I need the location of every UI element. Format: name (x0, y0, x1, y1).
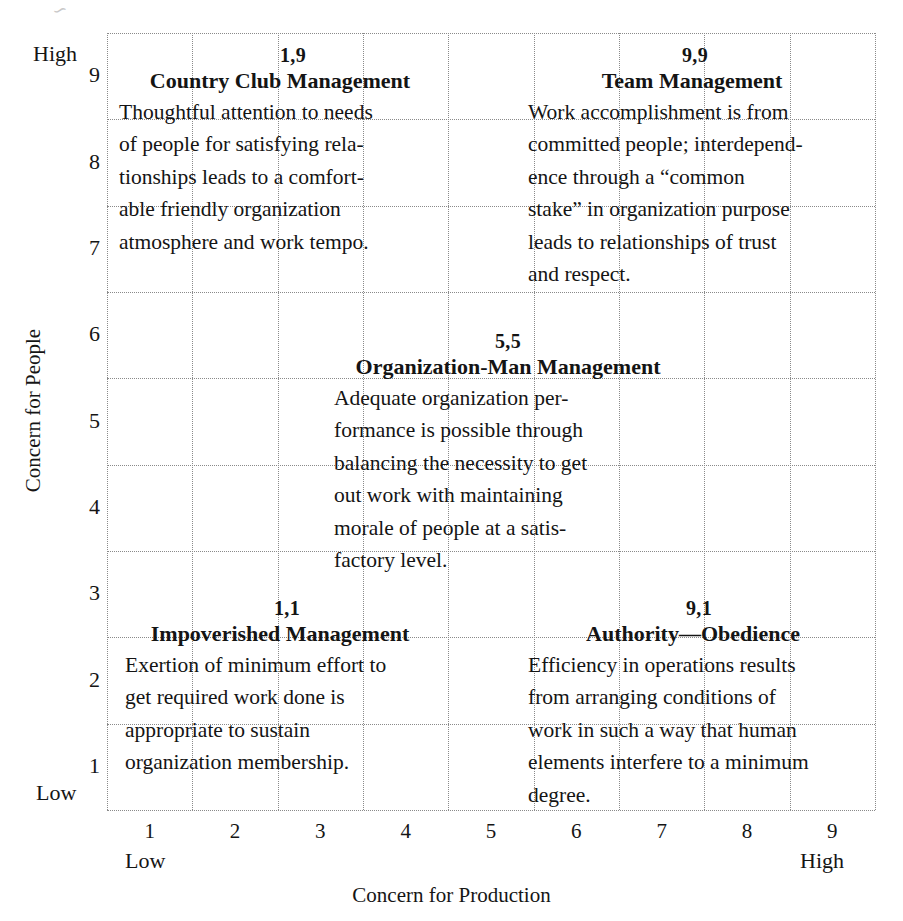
coordinate-label-9-1: 9,1 (540, 597, 858, 619)
style-title-organization-man: Organization-Man Management (334, 353, 682, 381)
text-line: from arranging conditions of (528, 681, 858, 713)
grid-line-vertical (107, 33, 108, 810)
x-tick-2: 2 (215, 820, 255, 842)
coordinate-label-1-9: 1,9 (147, 44, 439, 66)
text-line: able friendly organization (119, 193, 439, 225)
grid-line-vertical (875, 33, 876, 810)
style-title-country-club: Country Club Management (121, 67, 439, 95)
y-axis-title: Concern for People (23, 316, 44, 506)
style-description-organization-man: Adequate organization per-formance is po… (334, 382, 682, 576)
text-line: degree. (528, 779, 858, 811)
style-description-authority-obedience: Efficiency in operations resultsfrom arr… (528, 649, 858, 811)
y-axis-tick-labels: 9 8 7 6 5 4 3 2 1 (48, 33, 100, 810)
text-line: and respect. (528, 258, 858, 290)
y-tick-4: 4 (74, 496, 100, 518)
style-title-team: Team Management (526, 67, 858, 95)
y-tick-3: 3 (74, 582, 100, 604)
text-line: elements interfere to a minimum (528, 746, 858, 778)
y-tick-9: 9 (74, 64, 100, 86)
coordinate-label-9-9: 9,9 (532, 44, 858, 66)
text-line: Thoughtful attention to needs (119, 96, 439, 128)
x-axis-high-label: High (800, 849, 844, 873)
x-tick-8: 8 (727, 820, 767, 842)
style-description-impoverished: Exertion of minimum effort toget require… (125, 649, 435, 779)
y-tick-2: 2 (74, 669, 100, 691)
style-title-authority-obedience: Authority—Obedience (528, 620, 858, 648)
x-axis-tick-labels: 1 2 3 4 5 6 7 8 9 (107, 820, 875, 846)
y-axis-low-label: Low (36, 781, 76, 805)
x-axis-title: Concern for Production (0, 884, 903, 906)
text-line: organization membership. (125, 746, 435, 778)
x-tick-7: 7 (642, 820, 682, 842)
style-title-impoverished: Impoverished Management (125, 620, 435, 648)
text-line: morale of people at a satis- (334, 512, 682, 544)
text-line: out work with maintaining (334, 479, 682, 511)
text-line: work in such a way that human (528, 714, 858, 746)
text-line: appropriate to sustain (125, 714, 435, 746)
y-tick-1: 1 (74, 755, 100, 777)
x-tick-9: 9 (812, 820, 852, 842)
x-axis-low-label: Low (125, 849, 165, 873)
text-line: stake” in organization purpose (528, 193, 858, 225)
x-tick-1: 1 (130, 820, 170, 842)
grid-cell-organization-man-management: 5,5 Organization-Man Management Adequate… (334, 330, 682, 576)
style-description-country-club: Thoughtful attention to needsof people f… (119, 96, 439, 258)
scan-artifact: ∽ (50, 0, 75, 19)
grid-cell-country-club-management: 1,9 Country Club Management Thoughtful a… (119, 44, 439, 258)
y-tick-7: 7 (74, 237, 100, 259)
y-tick-5: 5 (74, 410, 100, 432)
y-tick-6: 6 (74, 323, 100, 345)
text-line: tionships leads to a comfort- (119, 161, 439, 193)
grid-cell-authority-obedience: 9,1 Authority—Obedience Efficiency in op… (528, 597, 858, 811)
grid-line-horizontal (107, 292, 875, 293)
text-line: ence through a “common (528, 161, 858, 193)
text-line: of people for satisfying rela- (119, 128, 439, 160)
coordinate-label-5-5: 5,5 (334, 330, 682, 352)
text-line: formance is possible through (334, 414, 682, 446)
coordinate-label-1-1: 1,1 (139, 597, 435, 619)
y-axis-high-label: High (33, 42, 77, 66)
text-line: atmosphere and work tempo. (119, 226, 439, 258)
grid-cell-impoverished-management: 1,1 Impoverished Management Exertion of … (125, 597, 435, 779)
x-tick-6: 6 (556, 820, 596, 842)
text-line: factory level. (334, 544, 682, 576)
style-description-team: Work accomplishment is fromcommitted peo… (528, 96, 858, 290)
text-line: Work accomplishment is from (528, 96, 858, 128)
text-line: Exertion of minimum effort to (125, 649, 435, 681)
managerial-grid-figure: ∽ 9 8 7 6 5 4 3 2 1 High Low Concern for… (0, 0, 903, 921)
x-tick-5: 5 (471, 820, 511, 842)
text-line: get required work done is (125, 681, 435, 713)
grid-line-horizontal (107, 33, 875, 34)
text-line: Efficiency in operations results (528, 649, 858, 681)
y-tick-8: 8 (74, 151, 100, 173)
text-line: Adequate organization per- (334, 382, 682, 414)
text-line: committed people; interdepend- (528, 128, 858, 160)
x-tick-4: 4 (386, 820, 426, 842)
grid-cell-team-management: 9,9 Team Management Work accomplishment … (528, 44, 858, 290)
x-tick-3: 3 (300, 820, 340, 842)
text-line: balancing the necessity to get (334, 447, 682, 479)
text-line: leads to relationships of trust (528, 226, 858, 258)
